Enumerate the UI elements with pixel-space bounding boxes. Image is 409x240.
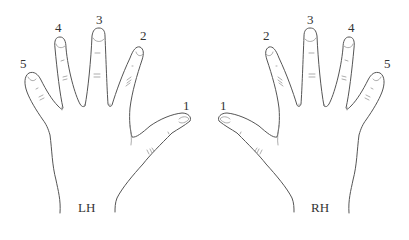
right-hand-outline [218, 28, 384, 213]
right-finger-1-label: 1 [220, 98, 227, 113]
right-hand [218, 28, 384, 213]
left-finger-1-label: 1 [183, 98, 190, 113]
left-finger-4-label: 4 [55, 20, 62, 35]
left-thumb-web [130, 125, 131, 145]
left-little-creases [36, 88, 44, 100]
right-thumb-web [278, 125, 279, 145]
right-finger-3-label: 3 [307, 12, 314, 27]
right-finger-2-label: 2 [263, 28, 270, 43]
left-ring-creases [61, 60, 67, 80]
right-middle-creases [309, 53, 315, 77]
right-little-creases [365, 88, 373, 100]
left-ring-nail [56, 44, 65, 48]
left-middle-nail [93, 38, 104, 42]
right-finger-webs [299, 104, 347, 110]
left-middle-creases [94, 53, 100, 77]
right-index-creases [276, 66, 283, 86]
left-finger-3-label: 3 [96, 12, 103, 27]
left-finger-2-label: 2 [140, 28, 147, 43]
right-finger-4-label: 4 [348, 20, 355, 35]
right-little-nail [373, 77, 381, 81]
left-finger-webs [62, 104, 110, 110]
right-finger-5-label: 5 [384, 56, 391, 71]
left-index-nail [136, 52, 143, 56]
left-hand: 5 4 3 2 1 LH [20, 12, 191, 215]
left-little-nail [28, 77, 36, 81]
right-middle-nail [305, 38, 316, 42]
right-ring-nail [344, 44, 353, 48]
right-thumb-creases [240, 132, 262, 154]
left-thumb-nail [179, 117, 189, 123]
right-hand-labels: 1 2 3 4 5 RH [220, 12, 391, 215]
left-thumb-creases [147, 132, 169, 154]
left-hand-outline [25, 28, 191, 213]
left-finger-5-label: 5 [20, 56, 27, 71]
hands-diagram: 5 4 3 2 1 LH 1 2 3 4 5 RH [0, 0, 409, 240]
right-index-nail [266, 52, 273, 56]
right-hand-label: RH [311, 200, 329, 215]
left-index-creases [126, 66, 133, 86]
right-thumb-nail [220, 117, 230, 123]
right-ring-creases [342, 60, 348, 80]
left-hand-label: LH [78, 200, 95, 215]
